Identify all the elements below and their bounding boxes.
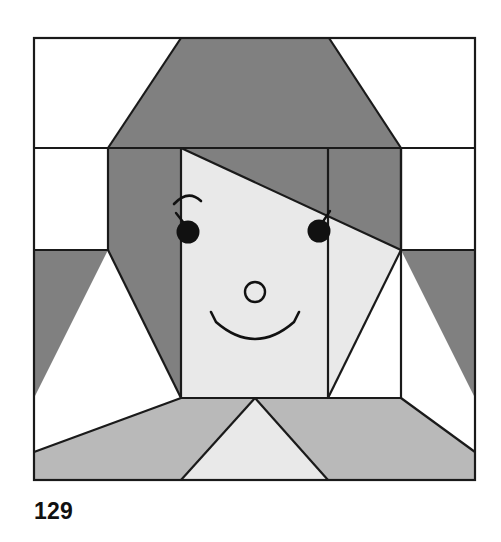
- block-number-caption: 129: [34, 498, 73, 525]
- quilt-block-figure: [0, 0, 501, 500]
- page-root: 129: [0, 0, 501, 542]
- left-eye-pupil-icon: [177, 221, 200, 244]
- patch-right-white-side: [401, 148, 475, 250]
- patch-left-white-side: [34, 148, 108, 250]
- right-eye-pupil-icon: [308, 220, 331, 243]
